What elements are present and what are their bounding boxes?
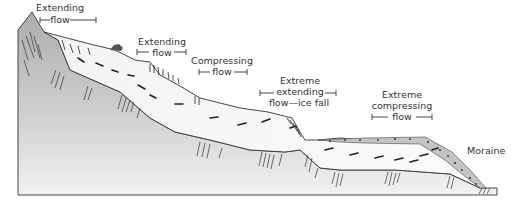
label-line: compressing [372,100,432,111]
label-line: flow [152,47,172,58]
label-line: flow—ice fall [269,97,329,108]
label-line: flow [392,111,412,122]
label-compressing-flow: Compressing flow [191,55,253,77]
label-line: Compressing [191,55,253,66]
label-moraine: Moraine [467,145,505,156]
label-line: extending [276,86,324,97]
label-line: flow [50,14,70,25]
label-extreme-extending-flow: Extreme extending flow—ice fall [260,75,336,108]
glacier-flow-diagram: Extending flow Extending flow Compressin… [0,0,520,209]
label-extending-flow-1: Extending flow [36,2,96,25]
label-line: Extreme [382,89,422,100]
label-line: Extending [36,2,84,13]
label-extreme-compressing-flow: Extreme compressing flow [372,89,432,122]
label-line: flow [212,66,232,77]
label-extending-flow-2: Extending flow [137,36,186,58]
label-line: Extending [138,36,186,47]
label-line: Extreme [280,75,320,86]
